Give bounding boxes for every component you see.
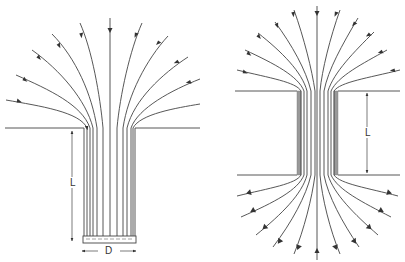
left-diameter-label: D xyxy=(104,245,113,256)
left-bottom-plate xyxy=(83,236,136,243)
right-figure xyxy=(235,6,400,260)
left-figure xyxy=(5,18,200,251)
left-length-label: L xyxy=(69,177,77,188)
right-channel-wall-left xyxy=(297,91,301,175)
right-channel-wall-right xyxy=(334,91,338,175)
diagram-canvas xyxy=(0,0,405,262)
right-length-label: L xyxy=(364,127,372,138)
